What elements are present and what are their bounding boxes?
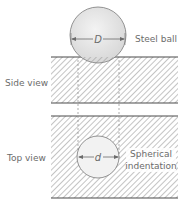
top-view-label: Top view bbox=[6, 153, 46, 163]
indent-diameter-label: d bbox=[95, 152, 102, 163]
ball-diameter-label: D bbox=[94, 34, 102, 45]
spherical-label-line2: indentation bbox=[125, 161, 176, 171]
brinell-hardness-diagram: D Steel ball Side view d Spherical inden… bbox=[0, 0, 188, 211]
spherical-label-line1: Spherical bbox=[130, 149, 172, 159]
steel-ball-label: Steel ball bbox=[135, 34, 177, 44]
side-view-label: Side view bbox=[5, 78, 48, 88]
side-view-block bbox=[51, 57, 178, 103]
